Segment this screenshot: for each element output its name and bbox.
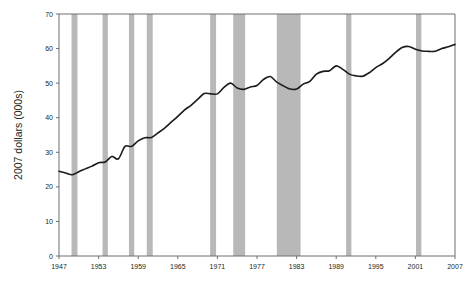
y-tick-label: 30 bbox=[45, 149, 53, 156]
recession-band bbox=[277, 14, 301, 256]
y-tick-label: 50 bbox=[45, 80, 53, 87]
income-line-chart: 010203040506070 194719531959196519711977… bbox=[0, 0, 475, 292]
y-tick-label: 10 bbox=[45, 218, 53, 225]
recession-band bbox=[72, 14, 78, 256]
recession-band bbox=[210, 14, 216, 256]
x-tick-label: 1953 bbox=[91, 263, 107, 270]
y-tick-label: 20 bbox=[45, 183, 53, 190]
recession-band bbox=[346, 14, 351, 256]
y-axis-title: 2007 dollars (000s) bbox=[12, 90, 24, 180]
x-tick-label: 1977 bbox=[249, 263, 265, 270]
x-tick-label: 2001 bbox=[408, 263, 424, 270]
x-tick-label: 1995 bbox=[368, 263, 384, 270]
y-tick-label: 0 bbox=[49, 253, 53, 260]
x-tick-label: 1965 bbox=[170, 263, 186, 270]
x-tick-label: 1989 bbox=[328, 263, 344, 270]
recession-band bbox=[147, 14, 153, 256]
recession-band bbox=[233, 14, 245, 256]
x-tick-label: 1971 bbox=[210, 263, 226, 270]
x-tick-label: 2007 bbox=[447, 263, 463, 270]
recession-band bbox=[129, 14, 134, 256]
y-tick-label: 60 bbox=[45, 45, 53, 52]
chart-figure: 010203040506070 194719531959196519711977… bbox=[0, 0, 475, 292]
x-tick-label: 1959 bbox=[130, 263, 146, 270]
recession-band bbox=[103, 14, 108, 256]
x-tick-label: 1983 bbox=[289, 263, 305, 270]
x-tick-label: 1947 bbox=[51, 263, 67, 270]
y-tick-label: 70 bbox=[45, 11, 53, 18]
y-tick-label: 40 bbox=[45, 114, 53, 121]
